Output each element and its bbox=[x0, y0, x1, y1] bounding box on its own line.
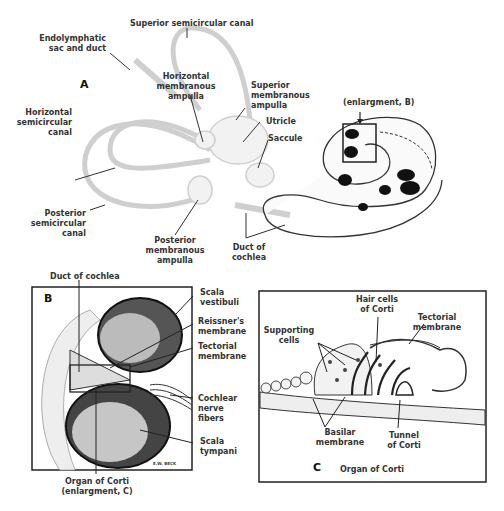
label-cochlear-nerve-fibers: Cochlear nerve fibers bbox=[198, 394, 237, 424]
label-organ-of-corti-b: Organ of Corti (enlargment, C) bbox=[56, 477, 138, 497]
label-superior-membranous-ampulla: Superior membranous ampulla bbox=[251, 81, 310, 111]
panel-a-letter: A bbox=[80, 80, 89, 90]
label-duct-of-cochlea-a: Duct of cochlea bbox=[224, 243, 274, 263]
label-duct-of-cochlea-b: Duct of cochlea bbox=[50, 272, 120, 282]
label-posterior-membranous-ampulla: Posterior membranous ampulla bbox=[142, 236, 208, 266]
label-enlargement-b: (enlargment, B) bbox=[343, 98, 414, 108]
panel-b-drawing bbox=[32, 287, 192, 470]
label-tectorial-membrane-c: Tectorial membrane bbox=[412, 313, 462, 333]
label-horizontal-membranous-ampulla: Horizontal membranous ampulla bbox=[152, 72, 220, 102]
label-basilar-membrane: Basilar membrane bbox=[312, 428, 368, 448]
label-hair-cells-of-corti: Hair cells of Corti bbox=[352, 295, 402, 315]
label-utricle: Utricle bbox=[266, 117, 296, 127]
label-saccule: Saccule bbox=[268, 134, 303, 144]
label-superior-semicircular-canal: Superior semicircular canal bbox=[130, 19, 254, 29]
label-horizontal-semicircular-canal: Horizontal semicircular canal bbox=[8, 108, 72, 138]
panel-c-letter: C bbox=[313, 463, 321, 473]
label-scala-tympani: Scala tympani bbox=[200, 437, 237, 457]
label-tectorial-membrane-b: Tectorial membrane bbox=[198, 342, 246, 362]
label-reissners-membrane: Reissner's membrane bbox=[198, 317, 246, 337]
label-tunnel-of-corti: Tunnel of Corti bbox=[380, 431, 428, 451]
panel-c-title: Organ of Corti bbox=[340, 465, 404, 475]
label-endolymphatic-sac-duct: Endolymphatic sac and duct bbox=[38, 34, 106, 54]
label-scala-vestibuli: Scala vestibuli bbox=[200, 288, 239, 308]
label-posterior-semicircular-canal: Posterior semicircular canal bbox=[22, 209, 86, 239]
artist-signature: E.W. BECK bbox=[153, 461, 176, 466]
label-supporting-cells: Supporting cells bbox=[262, 326, 316, 346]
panel-b-letter: B bbox=[44, 294, 52, 304]
